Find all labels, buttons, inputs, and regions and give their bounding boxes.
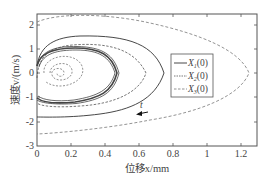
svg-text:0.2: 0.2 bbox=[65, 148, 78, 159]
x-axis-label: 位移x/mm bbox=[125, 162, 170, 174]
legend: X1(0) X2(0) X3(0) bbox=[171, 54, 213, 97]
svg-text:-3: -3 bbox=[26, 140, 34, 151]
time-label: t bbox=[140, 100, 143, 110]
svg-text:0.6: 0.6 bbox=[133, 148, 146, 159]
svg-text:0.4: 0.4 bbox=[99, 148, 112, 159]
svg-text:2: 2 bbox=[29, 19, 34, 30]
legend-label-x3: X3(0) bbox=[187, 84, 208, 95]
x-tick-labels: 0 0.2 0.4 0.6 0.8 1 1.2 bbox=[35, 148, 248, 159]
svg-text:1: 1 bbox=[205, 148, 210, 159]
svg-text:0: 0 bbox=[29, 67, 34, 78]
plot-area bbox=[37, 14, 257, 146]
phase-portrait-chart: t X1(0) X2(0) X3(0) 0 0.2 0.4 0.6 0.8 1 … bbox=[0, 0, 269, 183]
y-tick-labels: 2 1 0 -1 -2 -3 bbox=[26, 19, 34, 151]
svg-text:0.8: 0.8 bbox=[167, 148, 180, 159]
svg-text:0: 0 bbox=[35, 148, 40, 159]
svg-text:-1: -1 bbox=[26, 91, 34, 102]
svg-text:1.2: 1.2 bbox=[235, 148, 248, 159]
legend-label-x1: X1(0) bbox=[187, 58, 208, 69]
y-axis-label: 速度v/(m/s) bbox=[9, 54, 22, 105]
svg-text:1: 1 bbox=[29, 43, 34, 54]
legend-label-x2: X2(0) bbox=[187, 71, 208, 82]
svg-text:-2: -2 bbox=[26, 116, 34, 127]
